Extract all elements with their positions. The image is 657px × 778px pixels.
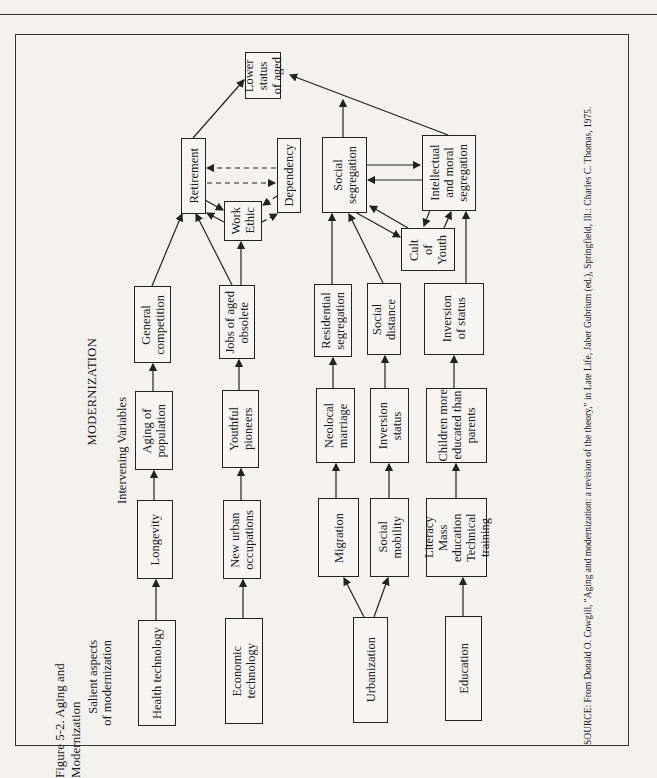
node-label: Lower status of aged: [242, 57, 284, 94]
node-general-competition: General competition: [134, 286, 171, 363]
node-education: Education: [445, 616, 482, 721]
node-dependency: Dependency: [277, 138, 301, 213]
node-literacy: Literacy Mass education Technical traini…: [426, 498, 487, 577]
node-migration: Migration: [318, 498, 359, 577]
node-social-distance: Social distance: [367, 283, 401, 355]
node-health-technology: Health technology: [138, 620, 176, 726]
source-note: SOURCE: From Donald O. Cowgill, "Aging a…: [583, 80, 593, 745]
node-work-ethic: Work Ethic: [224, 201, 262, 241]
node-label: Inversion of status: [440, 295, 468, 342]
node-label: New urban occupations: [228, 510, 256, 570]
node-lower-status: Lower status of aged: [245, 52, 281, 99]
node-label: Retirement: [187, 148, 201, 204]
salient-aspects-header: Salient aspects of modernization: [86, 640, 114, 726]
node-economic-technology: Economic technology: [225, 618, 263, 724]
node-inversion-status: Inversion status: [370, 388, 409, 463]
node-label: Jobs of aged obsolete: [223, 291, 251, 354]
node-label: Migration: [332, 513, 346, 563]
node-cult-of-youth: Cult of Youth: [401, 228, 455, 271]
node-social-segregation: Social segregation: [322, 137, 367, 213]
node-label: Social mobility: [376, 516, 404, 558]
node-label: Social distance: [370, 299, 398, 340]
node-label: Literacy Mass education Technical traini…: [422, 499, 492, 576]
node-children-educated: Children more educated than parents: [426, 388, 487, 463]
node-longevity: Longevity: [137, 500, 173, 579]
node-label: Inversion status: [376, 402, 404, 449]
node-urbanization: Urbanization: [353, 617, 388, 723]
node-new-urban-occupations: New urban occupations: [223, 500, 261, 579]
node-retirement: Retirement: [181, 138, 206, 214]
intervening-variables-header: Intervening Variables: [115, 397, 130, 504]
node-neolocal-marriage: Neolocal marriage: [316, 388, 355, 463]
node-label: Aging of population: [140, 404, 168, 457]
node-residential-segregation: Residential segregation: [314, 284, 352, 357]
diagram-title: MODERNIZATION: [85, 338, 100, 445]
node-label: Social segregation: [331, 146, 359, 204]
node-intellectual-moral-segregation: Intellectual and moral segregation: [422, 135, 476, 211]
node-inversion-of-status: Inversion of status: [424, 283, 484, 355]
node-jobs-obsolete: Jobs of aged obsolete: [219, 285, 255, 359]
node-label: Health technology: [150, 627, 164, 719]
node-social-mobility: Social mobility: [370, 498, 409, 577]
node-label: Intellectual and moral segregation: [428, 144, 470, 202]
node-label: Longevity: [148, 514, 162, 565]
node-youthful-pioneers: Youthful pioneers: [222, 390, 259, 468]
node-label: Economic technology: [230, 643, 258, 699]
node-label: Work Ethic: [229, 207, 257, 234]
node-label: Dependency: [282, 144, 296, 206]
figure-caption: Figure 5-2. Aging and Modernization: [52, 610, 84, 778]
node-label: General competition: [139, 295, 167, 355]
node-label: Education: [457, 643, 471, 694]
node-label: Urbanization: [364, 637, 378, 702]
node-aging-population: Aging of population: [135, 391, 173, 470]
node-label: Residential segregation: [319, 292, 347, 350]
node-label: Children more educated than parents: [436, 389, 478, 462]
node-label: Youthful pioneers: [227, 407, 255, 451]
node-label: Neolocal marriage: [322, 403, 350, 448]
node-label: Cult of Youth: [407, 235, 449, 265]
